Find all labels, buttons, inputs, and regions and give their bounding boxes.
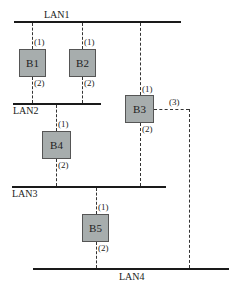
b2-link-port2 xyxy=(82,77,83,103)
b4-link-port1 xyxy=(56,105,57,131)
bridge-b2: B2 xyxy=(69,49,96,77)
b1-port2-label: (2) xyxy=(34,79,45,88)
bridge-b3: B3 xyxy=(125,95,154,123)
b4-port1-label: (1) xyxy=(58,120,69,129)
b1-link-port2 xyxy=(32,77,33,103)
b5-port1-label: (1) xyxy=(98,203,109,212)
b1-port1-label: (1) xyxy=(34,38,45,47)
bridge-b4-label: B4 xyxy=(50,139,63,151)
b3-port1-label: (1) xyxy=(142,85,153,94)
b4-port2-label: (2) xyxy=(58,161,69,170)
b4-link-port2 xyxy=(56,159,57,186)
b2-port2-label: (2) xyxy=(84,79,95,88)
bridge-b1-label: B1 xyxy=(26,57,39,69)
lan3-label: LAN3 xyxy=(12,189,38,199)
lan1-label: LAN1 xyxy=(44,10,70,20)
lan2-label: LAN2 xyxy=(13,106,39,116)
lan4-label: LAN4 xyxy=(119,272,145,282)
bridge-b3-label: B3 xyxy=(133,103,146,115)
b5-port2-label: (2) xyxy=(98,244,109,253)
b2-link-port1 xyxy=(82,23,83,49)
b3-link-port2 xyxy=(140,123,141,186)
bridge-b5-label: B5 xyxy=(89,222,102,234)
b1-link-port1 xyxy=(32,23,33,49)
lan1-segment xyxy=(14,21,181,23)
b2-port1-label: (1) xyxy=(84,38,95,47)
b5-link-port2 xyxy=(96,242,97,268)
bridge-b5: B5 xyxy=(82,214,109,242)
b3-port3-label: (3) xyxy=(169,98,180,107)
b3-port2-label: (2) xyxy=(142,125,153,134)
b3-link-port3-horizontal xyxy=(154,109,189,110)
b3-link-port1 xyxy=(140,23,141,95)
b3-link-port3-vertical xyxy=(189,109,190,268)
bridge-b1: B1 xyxy=(19,49,46,77)
bridge-b2-label: B2 xyxy=(76,57,89,69)
bridge-b4: B4 xyxy=(42,131,71,159)
lan4-segment xyxy=(33,268,229,270)
b5-link-port1 xyxy=(96,188,97,214)
